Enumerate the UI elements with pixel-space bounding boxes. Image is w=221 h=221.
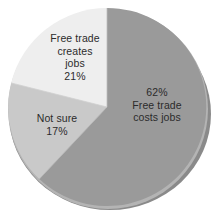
- pie-slices: [8, 8, 206, 206]
- pie-chart: Free trade creates jobs 21% 62% Free tra…: [0, 0, 221, 221]
- pie-chart-svg: [0, 0, 221, 221]
